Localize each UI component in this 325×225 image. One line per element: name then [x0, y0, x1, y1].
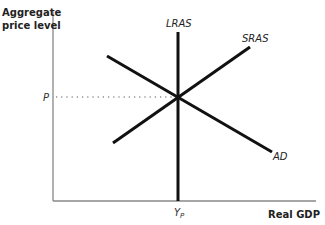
ad-label: AD [272, 151, 288, 162]
y-axis-title-line1: Aggregate [2, 7, 61, 18]
lras-label: LRAS [166, 18, 192, 29]
ad-curve [107, 56, 272, 152]
ad-as-diagram: Aggregate price level Real GDP LRAS SRAS… [0, 0, 325, 225]
potential-output-label: YP [174, 207, 185, 220]
potential-output-subscript: P [180, 212, 185, 220]
sras-label: SRAS [242, 33, 269, 44]
price-level-label: P [43, 92, 50, 103]
y-axis-title-line2: price level [2, 20, 61, 31]
x-axis-title: Real GDP [268, 209, 320, 220]
